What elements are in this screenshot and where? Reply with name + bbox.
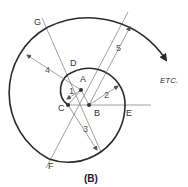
triangle-ab	[81, 90, 89, 105]
label-a: A	[80, 74, 86, 84]
radius-dimensions	[27, 27, 130, 150]
radius-label-1: 1	[69, 86, 74, 96]
label-d: D	[70, 58, 77, 68]
point-b-dot	[87, 103, 91, 107]
radius-label-2: 2	[104, 90, 109, 100]
line-f-through-c	[46, 12, 128, 168]
etc-annotation: ETC.	[160, 76, 178, 85]
line-g-through-a	[42, 18, 101, 152]
radius-label-5: 5	[116, 43, 121, 53]
point-c-dot	[66, 103, 70, 107]
spiral-construction-diagram: G D A C B E F 1 2 3 4 5 ETC. (B)	[0, 0, 188, 187]
label-b: B	[94, 108, 100, 118]
label-f: F	[48, 161, 54, 171]
radius-label-3: 3	[83, 124, 88, 134]
radius-label-4: 4	[45, 65, 50, 75]
label-g: G	[34, 17, 41, 27]
spiral-arc-5	[48, 18, 166, 60]
figure-caption: (B)	[84, 173, 98, 184]
spiral-arc-4	[9, 27, 49, 159]
label-e: E	[126, 108, 132, 118]
point-a-dot	[79, 88, 83, 92]
spiral-curve	[9, 18, 166, 162]
label-c: C	[58, 103, 65, 113]
